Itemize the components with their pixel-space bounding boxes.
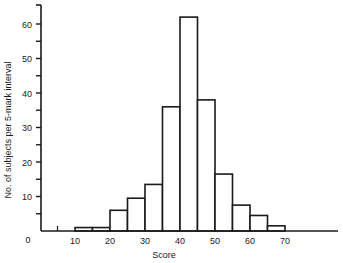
histogram-bar [145, 184, 163, 231]
histogram-bar [215, 174, 233, 231]
y-tick-label: 60 [22, 20, 32, 30]
y-tick-label: 30 [22, 123, 32, 133]
histogram-bar [180, 17, 198, 231]
y-axis-ticks: 102030405060 [22, 20, 41, 214]
histogram-bar [163, 107, 181, 231]
y-axis-label: No. of subjects per 5-mark interval [3, 61, 13, 198]
x-tick-label: 40 [175, 236, 185, 246]
y-tick-label: 40 [22, 89, 32, 99]
x-tick-label: 50 [210, 236, 220, 246]
histogram-bar [198, 100, 216, 231]
origin-label: 0 [25, 235, 30, 245]
x-axis-label: Score [152, 250, 176, 260]
histogram-bar [233, 205, 251, 231]
x-tick-label: 30 [140, 236, 150, 246]
histogram-bar [110, 210, 128, 231]
x-tick-label: 10 [70, 236, 80, 246]
x-tick-label: 70 [280, 236, 290, 246]
histogram-bar [250, 215, 268, 231]
y-tick-label: 10 [22, 192, 32, 202]
x-tick-label: 20 [105, 236, 115, 246]
histogram-bar [128, 198, 146, 231]
x-tick-label: 60 [245, 236, 255, 246]
y-tick-label: 50 [22, 54, 32, 64]
y-tick-label: 20 [22, 158, 32, 168]
histogram-bars [75, 17, 285, 231]
histogram-chart: 102030405060 10203040506070 0 Score No. … [0, 0, 343, 263]
